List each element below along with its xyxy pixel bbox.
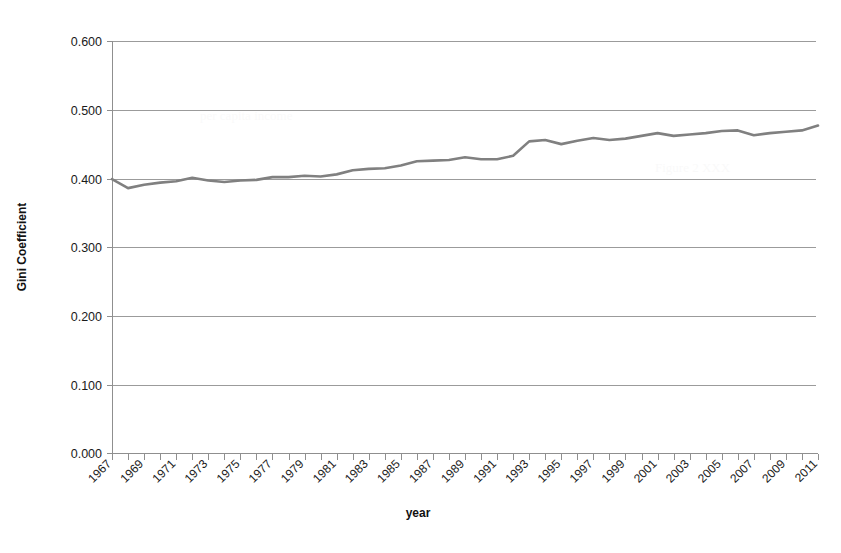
y-tick-label-0: 0.600 [71, 35, 102, 49]
y-tick-labels: 0.600 0.500 0.400 0.300 0.200 0.100 0.00… [71, 35, 102, 461]
y-tick-label-3: 0.300 [71, 241, 102, 255]
x-tick-label-1983: 1983 [342, 456, 371, 485]
y-axis-title: Gini Coefficient [15, 203, 29, 292]
gini-coefficient-line-chart: per capita income Figure 2 XXX 0. [0, 0, 841, 553]
x-tick-label-1995: 1995 [535, 456, 564, 485]
x-tick-label-1993: 1993 [503, 456, 532, 485]
data-series-group [112, 126, 818, 189]
x-tick-label-1989: 1989 [438, 456, 467, 485]
y-tick-label-2: 0.400 [71, 173, 102, 187]
x-tick-label-2005: 2005 [695, 456, 724, 485]
x-tick-label-1969: 1969 [117, 456, 146, 485]
x-tick-label-1987: 1987 [406, 456, 435, 485]
y-tick-label-4: 0.200 [71, 310, 102, 324]
y-gridlines [112, 42, 816, 386]
y-tick-label-6: 0.000 [71, 447, 102, 461]
x-tick-label-1997: 1997 [567, 456, 596, 485]
x-tick-label-1999: 1999 [599, 456, 628, 485]
x-tick-label-2007: 2007 [727, 456, 756, 485]
x-tick-label-1985: 1985 [374, 456, 403, 485]
x-axis-title: year [406, 506, 431, 520]
x-tick-label-1991: 1991 [470, 456, 499, 485]
x-tick-label-2001: 2001 [631, 456, 660, 485]
data-line-gini-coefficient [112, 126, 818, 189]
x-tick-label-1977: 1977 [246, 456, 275, 485]
x-tick-label-2009: 2009 [759, 456, 788, 485]
x-tick-label-1975: 1975 [214, 456, 243, 485]
y-tick-label-1: 0.500 [71, 104, 102, 118]
y-tick-label-5: 0.100 [71, 379, 102, 393]
x-tick-label-1979: 1979 [278, 456, 307, 485]
x-tick-label-1973: 1973 [182, 456, 211, 485]
x-tick-label-1981: 1981 [310, 456, 339, 485]
y-tickmarks [107, 42, 112, 454]
x-tick-label-2011: 2011 [792, 456, 820, 484]
x-tick-label-2003: 2003 [663, 456, 692, 485]
x-tick-label-1971: 1971 [150, 456, 179, 485]
chart-svg: 0.600 0.500 0.400 0.300 0.200 0.100 0.00… [0, 0, 841, 553]
x-tick-labels: 1967196919711973197519771979198119831985… [85, 456, 820, 485]
